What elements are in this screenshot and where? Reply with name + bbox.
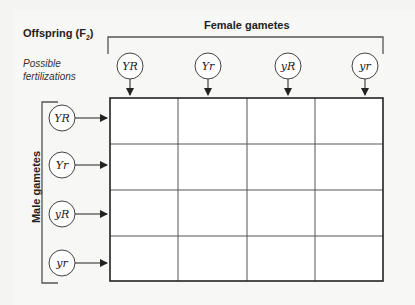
- punnett-grid-lines: [110, 98, 383, 281]
- female-gamete-y-R: yR: [275, 53, 301, 95]
- male-gamete-Yr: Yr: [49, 152, 107, 178]
- male-gamete-label: YR: [54, 112, 70, 125]
- male-gamete-label: Yr: [56, 159, 69, 172]
- male-gamete-yR: yR: [49, 201, 107, 227]
- female-gamete-yr-lower: yr: [352, 53, 378, 95]
- female-gamete-label: yR: [280, 60, 296, 73]
- female-gamete-y-r: Yr: [195, 53, 221, 95]
- female-gamete-label: Yr: [202, 60, 215, 73]
- punnett-diagram-graphics: YR Yr yR yr YR Yr yR yr: [0, 0, 415, 305]
- female-gamete-label: yr: [358, 60, 371, 73]
- female-bracket: [108, 37, 383, 54]
- male-gamete-yr: yr: [49, 250, 107, 276]
- female-gamete-label: YR: [122, 60, 138, 73]
- female-gamete-yr-upper: YR: [117, 53, 143, 95]
- male-gamete-label: yR: [54, 208, 70, 221]
- male-gamete-YR: YR: [49, 105, 107, 131]
- male-gamete-label: yr: [55, 257, 68, 270]
